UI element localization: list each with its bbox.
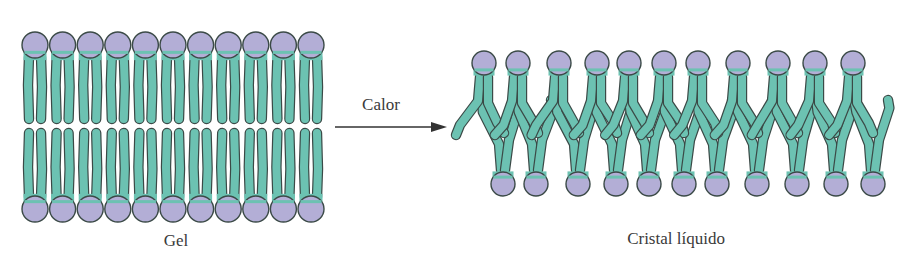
transition-label: Calor xyxy=(362,95,400,115)
lipid xyxy=(132,133,158,222)
lipid xyxy=(456,51,504,135)
lipid xyxy=(715,51,758,135)
lipid xyxy=(50,133,76,222)
lipid xyxy=(215,32,241,119)
lipid xyxy=(243,133,269,222)
lipid xyxy=(105,32,131,119)
lipid xyxy=(188,32,214,119)
lipid xyxy=(160,133,186,222)
lipid xyxy=(132,32,158,119)
lipid xyxy=(298,133,324,222)
gel-bilayer xyxy=(22,32,324,222)
lipid xyxy=(77,32,103,119)
lipid xyxy=(22,133,48,222)
lipid xyxy=(105,133,131,222)
lipid xyxy=(50,32,76,119)
gel-phase-label: Gel xyxy=(164,231,189,251)
lipid xyxy=(270,32,296,119)
figure-stage: Calor Gel Cristal líquido xyxy=(0,0,918,269)
lipid xyxy=(532,51,579,135)
liquid-crystal-phase-label: Cristal líquido xyxy=(627,229,725,249)
lipid xyxy=(188,133,214,222)
liquid-crystal-bilayer xyxy=(456,51,889,196)
lipid xyxy=(77,133,103,222)
lipid xyxy=(22,32,48,119)
lipid xyxy=(243,32,269,119)
lipid xyxy=(270,133,296,222)
lipid xyxy=(752,51,798,135)
heat-arrow-icon xyxy=(335,122,447,132)
lipid xyxy=(298,32,324,119)
lipid xyxy=(160,32,186,119)
bilayer-diagram xyxy=(0,0,918,269)
lipid xyxy=(215,133,241,222)
